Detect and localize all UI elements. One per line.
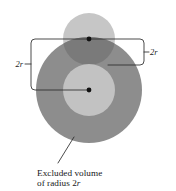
excluded-volume-diagram: 2r 2r Excluded volume of radius 2r	[0, 0, 176, 191]
figure-container: 2r 2r Excluded volume of radius 2r	[0, 0, 176, 191]
left-dimension-label: 2r	[15, 59, 23, 69]
upper-sphere-center-dot	[87, 37, 92, 42]
caption-line-2-prefix: of radius 2	[37, 178, 77, 188]
right-dimension-label: 2r	[150, 47, 158, 57]
caption-line-2: of radius 2r	[37, 178, 81, 188]
caption-line-1: Excluded volume	[37, 168, 102, 178]
caption-line-2-symbol: r	[77, 178, 81, 188]
molecule-center-dot	[87, 88, 92, 93]
caption-leader-line	[58, 137, 74, 163]
